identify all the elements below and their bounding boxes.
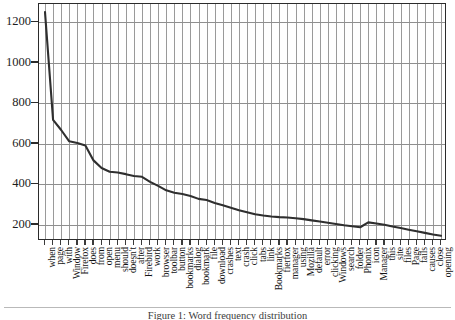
y-tick-mark <box>31 183 38 184</box>
y-tick-label: 600 <box>12 136 31 151</box>
x-tick-mark <box>295 240 296 245</box>
x-tick-mark <box>101 240 102 245</box>
x-tick-mark <box>311 240 312 245</box>
x-tick-mark <box>60 240 61 245</box>
x-tick-mark <box>303 240 304 245</box>
x-tick-mark <box>173 240 174 245</box>
x-tick-mark <box>343 240 344 245</box>
x-tick-mark <box>52 240 53 245</box>
x-tick-mark <box>383 240 384 245</box>
y-tick-label: 1000 <box>6 55 31 70</box>
x-tick-mark <box>408 240 409 245</box>
x-tick-mark <box>238 240 239 245</box>
y-tick-mark <box>31 223 38 224</box>
x-tick-mark <box>189 240 190 245</box>
x-tick-mark <box>367 240 368 245</box>
caption-rule <box>4 307 451 308</box>
x-tick-mark <box>230 240 231 245</box>
x-tick-mark <box>270 240 271 245</box>
x-tick-mark <box>432 240 433 245</box>
x-tick-mark <box>400 240 401 245</box>
x-tick-label: opening <box>443 247 453 277</box>
x-tick-mark <box>141 240 142 245</box>
x-tick-mark <box>222 240 223 245</box>
x-tick-mark <box>157 240 158 245</box>
x-tick-mark <box>351 240 352 245</box>
x-tick-mark <box>44 240 45 245</box>
x-tick-mark <box>198 240 199 245</box>
x-tick-mark <box>335 240 336 245</box>
y-tick-mark <box>31 61 38 62</box>
x-tick-mark <box>440 240 441 245</box>
data-layer <box>39 4 445 239</box>
y-tick-label: 800 <box>12 95 31 110</box>
x-tick-mark <box>359 240 360 245</box>
y-tick-label: 200 <box>12 217 31 232</box>
x-tick-mark <box>327 240 328 245</box>
x-tick-mark <box>375 240 376 245</box>
y-tick-label: 1200 <box>6 14 31 29</box>
x-tick-mark <box>214 240 215 245</box>
plot-area <box>38 3 446 240</box>
x-tick-mark <box>84 240 85 245</box>
y-tick-label: 400 <box>12 176 31 191</box>
x-tick-mark <box>125 240 126 245</box>
x-tick-mark <box>76 240 77 245</box>
x-tick-mark <box>262 240 263 245</box>
x-tick-mark <box>319 240 320 245</box>
x-tick-mark <box>68 240 69 245</box>
x-tick-mark <box>286 240 287 245</box>
y-tick-mark <box>31 21 38 22</box>
x-tick-mark <box>165 240 166 245</box>
x-tick-mark <box>92 240 93 245</box>
x-tick-mark <box>206 240 207 245</box>
x-tick-mark <box>254 240 255 245</box>
x-tick-mark <box>117 240 118 245</box>
x-tick-mark <box>181 240 182 245</box>
x-tick-mark <box>246 240 247 245</box>
y-tick-mark <box>31 102 38 103</box>
x-tick-mark <box>278 240 279 245</box>
x-tick-mark <box>109 240 110 245</box>
x-tick-mark <box>424 240 425 245</box>
frequency-line-series <box>39 4 446 240</box>
figure-caption: Figure 1: Word frequency distribution <box>0 310 455 320</box>
x-tick-mark <box>416 240 417 245</box>
figure-container: 20040060080010001200 whenpagewithWindowF… <box>0 0 455 320</box>
x-tick-mark <box>133 240 134 245</box>
y-tick-mark <box>31 142 38 143</box>
x-tick-mark <box>149 240 150 245</box>
x-tick-mark <box>392 240 393 245</box>
